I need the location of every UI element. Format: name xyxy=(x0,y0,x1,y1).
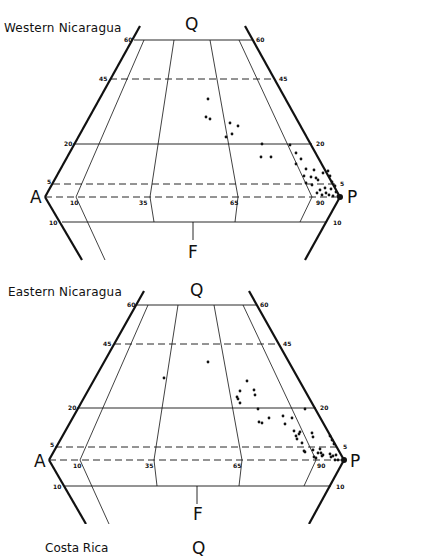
sample-point xyxy=(332,455,335,458)
svg-text:10: 10 xyxy=(70,199,78,206)
sample-points xyxy=(205,98,340,198)
sample-point xyxy=(312,449,315,452)
sample-point xyxy=(237,398,240,401)
sample-point xyxy=(331,181,334,184)
svg-text:90: 90 xyxy=(316,199,324,206)
sample-point xyxy=(207,98,210,101)
sample-point xyxy=(325,192,328,195)
svg-text:20: 20 xyxy=(64,140,72,147)
sample-point xyxy=(293,430,296,433)
sample-point xyxy=(332,195,335,198)
svg-text:60: 60 xyxy=(256,36,264,43)
sample-point xyxy=(258,421,261,424)
sample-point xyxy=(163,377,166,380)
sample-point xyxy=(330,188,333,191)
sample-point xyxy=(305,182,308,185)
svg-text:35: 35 xyxy=(139,199,147,206)
sample-point xyxy=(295,435,298,438)
sample-point xyxy=(260,156,263,159)
sample-point xyxy=(282,415,285,418)
sample-point xyxy=(310,176,313,179)
sample-point xyxy=(261,143,264,146)
ratio65-line xyxy=(210,40,238,222)
sample-point xyxy=(321,194,324,197)
sample-point xyxy=(270,156,273,159)
left-upper-edge xyxy=(45,26,140,197)
sample-point xyxy=(334,185,337,188)
sample-point xyxy=(299,431,302,434)
svg-text:60: 60 xyxy=(260,301,268,308)
sample-point xyxy=(319,448,322,451)
sample-point xyxy=(319,189,322,192)
svg-text:10: 10 xyxy=(336,483,344,490)
sample-point xyxy=(284,423,287,426)
sample-point xyxy=(329,435,332,438)
svg-text:45: 45 xyxy=(103,340,111,347)
sample-point xyxy=(320,452,323,455)
sample-point xyxy=(231,133,234,136)
sample-point xyxy=(239,390,242,393)
partial-vertex-q-label: Q xyxy=(192,540,205,557)
panel-eastern-nicaragua: Eastern Nicaragua Q A P F 60 45 20 5 1 xyxy=(0,262,441,524)
svg-text:5: 5 xyxy=(47,178,51,185)
sample-point xyxy=(317,452,320,455)
sample-point xyxy=(237,125,240,128)
svg-text:10: 10 xyxy=(73,462,81,469)
sample-point xyxy=(333,443,336,446)
svg-text:10: 10 xyxy=(53,483,61,490)
sample-points xyxy=(163,361,340,462)
svg-text:10: 10 xyxy=(333,219,341,226)
svg-text:20: 20 xyxy=(316,140,324,147)
sample-point xyxy=(321,455,324,458)
sample-point xyxy=(317,179,320,182)
sample-point xyxy=(291,417,294,420)
sample-point xyxy=(324,187,327,190)
sample-point xyxy=(303,175,306,178)
sample-point xyxy=(207,361,210,364)
sample-point xyxy=(254,394,257,397)
sample-point xyxy=(329,453,332,456)
sample-point xyxy=(315,177,318,180)
sample-point xyxy=(300,158,303,161)
sample-point xyxy=(289,144,292,147)
sample-point xyxy=(303,450,306,453)
ratio35-line xyxy=(150,40,174,222)
svg-text:20: 20 xyxy=(320,404,328,411)
diagram-canvas: 60 45 20 5 10 35 65 90 10 60 45 20 5 10 xyxy=(0,262,441,524)
sample-point xyxy=(335,454,338,457)
sample-point xyxy=(304,408,307,411)
sample-point xyxy=(205,116,208,119)
svg-text:45: 45 xyxy=(279,75,287,82)
sample-point xyxy=(312,436,315,439)
left-lower-edge xyxy=(45,197,82,260)
right-lower-edge xyxy=(305,197,340,260)
ratio10-line xyxy=(76,40,144,260)
diagram-canvas: 60 45 20 5 10 35 65 90 10 60 45 20 5 10 xyxy=(0,0,441,262)
sample-point xyxy=(295,152,298,155)
sample-point xyxy=(301,442,304,445)
svg-text:45: 45 xyxy=(99,75,107,82)
sample-point xyxy=(335,191,338,194)
sample-point xyxy=(313,169,316,172)
panel-western-nicaragua: Western Nicaragua Q A P F 60 xyxy=(0,0,441,262)
sample-point xyxy=(328,194,331,197)
sample-point xyxy=(334,459,337,462)
svg-text:5: 5 xyxy=(340,180,344,187)
svg-text:65: 65 xyxy=(233,462,241,469)
svg-text:60: 60 xyxy=(127,301,135,308)
sample-point xyxy=(225,136,228,139)
sample-point xyxy=(311,184,314,187)
svg-text:5: 5 xyxy=(50,441,54,448)
sample-point xyxy=(316,192,319,195)
sample-point xyxy=(329,175,332,178)
sample-point xyxy=(327,170,330,173)
partial-panel-title: Costa Rica xyxy=(45,541,108,555)
svg-text:20: 20 xyxy=(68,404,76,411)
svg-text:10: 10 xyxy=(49,219,57,226)
sample-point xyxy=(337,459,340,462)
svg-text:90: 90 xyxy=(317,462,325,469)
svg-text:35: 35 xyxy=(145,462,153,469)
sample-point xyxy=(322,172,325,175)
sample-point xyxy=(239,402,242,405)
svg-text:60: 60 xyxy=(124,36,132,43)
